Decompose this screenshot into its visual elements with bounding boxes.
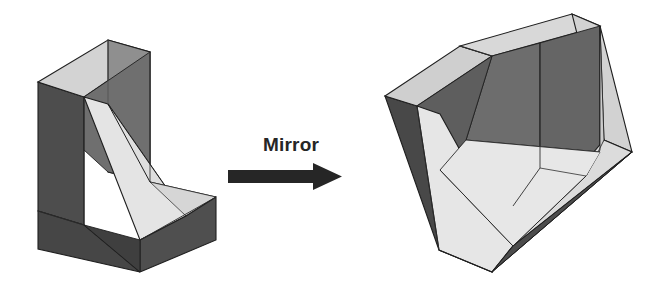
right-object-angle-block-mirrored — [385, 14, 632, 272]
mirror-label: Mirror — [236, 134, 346, 156]
left-back-outer-side-face — [38, 82, 84, 225]
mirror-arrow-group — [228, 163, 342, 190]
right-inner-back-wall-right — [540, 26, 600, 168]
right-arrow-icon[interactable] — [228, 163, 342, 190]
left-object-angle-block-original — [38, 40, 216, 272]
illustration-canvas: Mirror — [0, 0, 666, 287]
